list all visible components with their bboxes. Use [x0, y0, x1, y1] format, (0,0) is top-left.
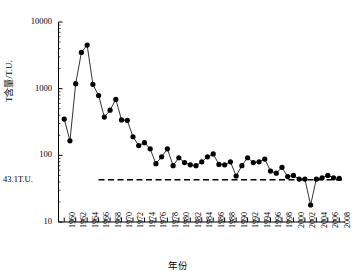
x-axis-label: 年份	[0, 258, 355, 272]
data-point	[234, 173, 239, 178]
x-tick-label: 1990	[240, 212, 249, 228]
x-tick-label: 2004	[320, 212, 329, 228]
data-point	[205, 154, 210, 159]
data-point	[302, 177, 307, 182]
data-point	[90, 82, 95, 87]
x-tick-label: 1966	[102, 212, 111, 228]
data-point	[188, 162, 193, 167]
data-point	[262, 156, 267, 161]
x-tick-label: 1972	[136, 212, 145, 228]
data-point	[79, 50, 84, 55]
data-point	[245, 155, 250, 160]
x-tick-label: 1986	[217, 212, 226, 228]
axis-ticks	[59, 22, 340, 222]
data-point	[159, 154, 164, 159]
data-point	[331, 175, 336, 180]
x-tick-label: 1996	[274, 212, 283, 228]
data-point	[291, 173, 296, 178]
data-point	[102, 114, 107, 119]
x-tick-label: 1982	[194, 212, 203, 228]
data-point	[153, 161, 158, 166]
chart-plot-area	[0, 0, 355, 278]
data-point	[222, 162, 227, 167]
x-tick-label: 1960	[68, 212, 77, 228]
x-tick-label: 1994	[263, 212, 272, 228]
x-tick-label: 1998	[285, 212, 294, 228]
x-tick-label: 1974	[148, 212, 157, 228]
data-point	[67, 138, 72, 143]
axes	[59, 22, 346, 222]
data-point	[308, 202, 313, 207]
data-point	[228, 159, 233, 164]
y-tick-label: 1000	[6, 83, 52, 93]
data-point	[256, 159, 261, 164]
x-tick-label: 2000	[297, 212, 306, 228]
x-tick-label: 2008	[343, 212, 352, 228]
threshold-label: 43.1T.U.	[3, 174, 33, 184]
data-point	[325, 173, 330, 178]
data-point	[239, 163, 244, 168]
x-tick-label: 1968	[114, 212, 123, 228]
data-point	[148, 146, 153, 151]
data-point	[211, 151, 216, 156]
data-point	[113, 97, 118, 102]
data-point	[279, 165, 284, 170]
x-tick-label: 2006	[331, 212, 340, 228]
data-point	[85, 43, 90, 48]
x-tick-label: 1992	[251, 212, 260, 228]
data-point	[216, 162, 221, 167]
data-point	[274, 171, 279, 176]
data-point	[319, 175, 324, 180]
data-point	[337, 176, 342, 181]
series-markers	[62, 43, 342, 208]
data-point	[297, 177, 302, 182]
data-point	[165, 146, 170, 151]
data-point	[62, 116, 67, 121]
x-tick-label: 1978	[171, 212, 180, 228]
x-tick-label: 2002	[308, 212, 317, 228]
y-tick-label: 100	[6, 149, 52, 159]
data-point	[182, 160, 187, 165]
x-tick-label: 1970	[125, 212, 134, 228]
data-point	[268, 169, 273, 174]
data-point	[285, 174, 290, 179]
data-point	[73, 81, 78, 86]
data-point	[199, 159, 204, 164]
data-point	[251, 160, 256, 165]
data-point	[125, 118, 130, 123]
x-tick-label: 1964	[91, 212, 100, 228]
data-point	[136, 143, 141, 148]
x-tick-label: 1962	[79, 212, 88, 228]
data-point	[130, 134, 135, 139]
data-point	[96, 93, 101, 98]
x-tick-label: 1984	[205, 212, 214, 228]
chart-figure: T含量/T.U. 年份 10000100010010 1960196219641…	[0, 0, 355, 278]
data-point	[142, 140, 147, 145]
data-point	[176, 155, 181, 160]
data-point	[119, 117, 124, 122]
y-tick-label: 10	[6, 216, 52, 226]
x-tick-label: 1988	[228, 212, 237, 228]
x-tick-label: 1980	[182, 212, 191, 228]
data-point	[171, 163, 176, 168]
data-point	[193, 163, 198, 168]
data-point	[107, 108, 112, 113]
y-tick-label: 10000	[6, 16, 52, 26]
data-point	[314, 177, 319, 182]
x-tick-label: 1976	[159, 212, 168, 228]
